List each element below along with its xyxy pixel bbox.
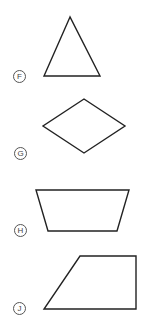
trapezoid-shape-h bbox=[36, 190, 129, 231]
choice-label-j[interactable]: J bbox=[13, 302, 26, 315]
choice-label-g[interactable]: G bbox=[14, 147, 27, 160]
rhombus-shape-g bbox=[43, 99, 125, 153]
trapezoid-shape-j bbox=[44, 256, 136, 309]
shapes-canvas bbox=[0, 0, 149, 326]
triangle-shape-f bbox=[44, 17, 100, 76]
choice-label-f[interactable]: F bbox=[13, 70, 26, 83]
choice-label-h[interactable]: H bbox=[14, 224, 27, 237]
